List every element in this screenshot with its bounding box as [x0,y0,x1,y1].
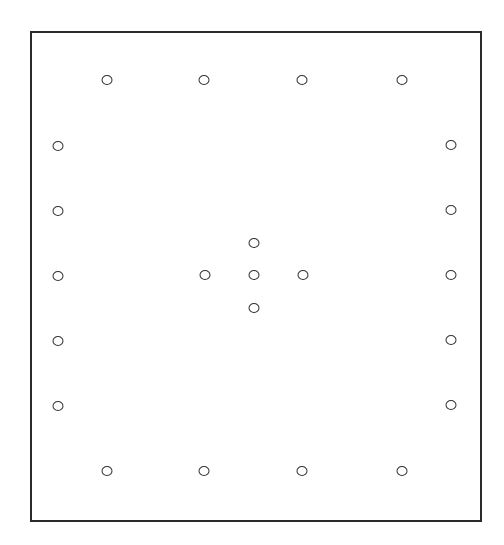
center-cross-circle-icon [298,270,309,280]
left-column-circle-icon [53,336,64,346]
right-column-circle-icon [446,140,457,150]
center-cross-circle-icon [249,270,260,280]
right-column-circle-icon [446,270,457,280]
right-column-circle-icon [446,400,457,410]
top-row-circle-icon [102,75,113,85]
left-column-circle-icon [53,401,64,411]
right-column-circle-icon [446,205,457,215]
center-cross-circle-icon [249,238,260,248]
points-layer [0,0,504,545]
top-row-circle-icon [297,75,308,85]
bottom-row-circle-icon [102,466,113,476]
bottom-row-circle-icon [199,466,210,476]
bottom-row-circle-icon [297,466,308,476]
center-cross-circle-icon [200,270,211,280]
right-column-circle-icon [446,335,457,345]
top-row-circle-icon [397,75,408,85]
left-column-circle-icon [53,206,64,216]
left-column-circle-icon [53,141,64,151]
left-column-circle-icon [53,271,64,281]
center-cross-circle-icon [249,303,260,313]
bottom-row-circle-icon [397,466,408,476]
top-row-circle-icon [199,75,210,85]
